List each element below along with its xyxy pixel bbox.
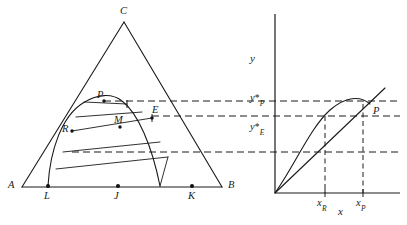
point-label-p-left: P xyxy=(97,90,103,101)
base-label-l: L xyxy=(44,191,50,202)
dome-curve-group xyxy=(48,96,160,186)
point-label-r: R xyxy=(62,124,68,135)
chord-line-4 xyxy=(63,142,160,152)
forty-five-degree-line xyxy=(275,88,385,193)
chord-line-2 xyxy=(76,112,142,117)
triangle-side-ac xyxy=(22,22,124,187)
axes-group xyxy=(275,14,400,193)
inner-region-edges xyxy=(160,157,168,186)
vertex-label-c: C xyxy=(120,6,127,17)
figure-svg xyxy=(0,0,407,225)
dot-l xyxy=(46,184,50,188)
x-tick-label-xp: xP xyxy=(356,198,365,211)
vertical-drops-group xyxy=(325,104,363,193)
point-label-m: M xyxy=(114,115,123,126)
x-tick-xr-sub: R xyxy=(322,204,327,213)
diagonal-line-group xyxy=(275,88,385,193)
dot-e xyxy=(150,116,153,119)
base-label-k: K xyxy=(188,191,195,202)
dot-r xyxy=(70,129,73,132)
y-tick-ye-star: * xyxy=(255,122,260,132)
x-tick-xp-sub: P xyxy=(361,204,366,213)
x-tick-label-xr: xR xyxy=(317,198,326,211)
figure-root: A B C L J K P M E R y x y*P y*E xR xP P xyxy=(0,0,407,225)
vertex-label-b: B xyxy=(228,180,234,191)
point-label-p-right: P xyxy=(373,106,379,117)
vertex-label-a: A xyxy=(8,180,14,191)
y-tick-yp-star: * xyxy=(255,93,260,103)
x-tick-xp-main: x xyxy=(356,197,361,208)
dot-m xyxy=(118,125,121,128)
x-axis-label: x xyxy=(338,206,343,217)
base-label-j: J xyxy=(114,191,119,202)
chord-line-1 xyxy=(84,102,127,104)
dot-k xyxy=(190,184,194,188)
dome-curve xyxy=(48,96,160,186)
x-tick-xr-main: x xyxy=(317,197,322,208)
y-axis-label: y xyxy=(250,53,255,64)
y-tick-yp-sub: P xyxy=(260,99,265,108)
point-label-e: E xyxy=(152,105,158,116)
y-tick-label-yp: y*P xyxy=(250,93,264,106)
dot-j xyxy=(116,184,120,188)
y-tick-ye-sub: E xyxy=(260,128,265,137)
inner-edge-right xyxy=(160,157,168,186)
y-tick-label-ye: y*E xyxy=(250,122,264,135)
chord-line-5 xyxy=(56,157,168,169)
triangle-side-cb xyxy=(124,22,222,187)
